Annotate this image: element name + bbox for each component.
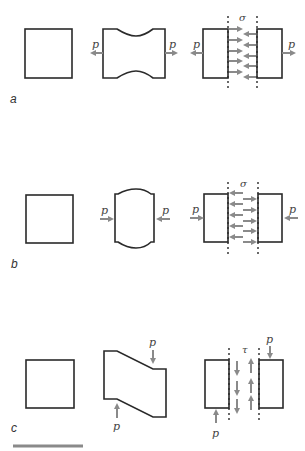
row-label: a xyxy=(10,92,17,106)
stress-symbol: σ xyxy=(239,12,247,23)
undeformed-square xyxy=(25,29,72,78)
stress-symbol: τ xyxy=(242,344,248,355)
undeformed-square xyxy=(26,360,74,408)
force-label: p xyxy=(288,38,295,51)
force-label: p xyxy=(193,38,200,51)
row-a-tension: p p σ p p a xyxy=(10,12,295,106)
necked-body xyxy=(103,29,165,78)
force-label: p xyxy=(212,427,219,440)
right-cut-body xyxy=(259,360,283,408)
stress-diagram: p p σ p p a xyxy=(0,0,305,451)
bulged-body xyxy=(115,189,154,248)
force-label: p xyxy=(149,336,156,349)
row-label: b xyxy=(11,257,18,271)
left-cut-body xyxy=(203,29,228,78)
row-b-compression: p p σ p p b xyxy=(11,178,298,271)
stress-arrows-inward xyxy=(232,193,254,242)
sheared-body xyxy=(104,351,166,417)
force-label: p xyxy=(192,203,199,216)
left-cut-body xyxy=(205,360,229,408)
force-label: p xyxy=(169,38,176,51)
force-label: p xyxy=(162,204,169,217)
force-label: p xyxy=(92,38,99,51)
undeformed-square xyxy=(26,195,73,243)
shear-arrows xyxy=(237,361,251,411)
right-cut-body xyxy=(257,29,282,78)
stress-arrows-outward xyxy=(229,29,256,77)
row-c-shear: p p τ p p c xyxy=(11,333,283,440)
force-label: p xyxy=(289,203,296,216)
left-cut-body xyxy=(204,194,228,242)
force-label: p xyxy=(266,333,273,346)
row-label: c xyxy=(11,421,17,435)
stress-symbol: σ xyxy=(240,178,248,189)
force-label: p xyxy=(101,204,108,217)
force-label: p xyxy=(113,420,120,433)
right-cut-body xyxy=(258,194,282,242)
